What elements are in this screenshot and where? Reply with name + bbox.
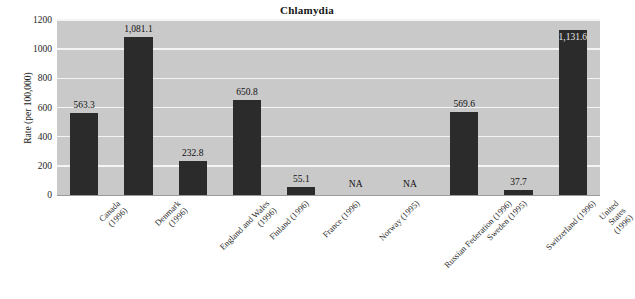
plot-area: 563.31,081.1232.8650.855.1NANA569.637.71…	[57, 20, 600, 195]
x-axis-line	[57, 195, 600, 196]
bar-value-label: 55.1	[293, 174, 310, 184]
bar-value-label: 563.3	[73, 100, 94, 110]
bar[interactable]	[70, 113, 98, 195]
y-axis-tick-label: 800	[16, 73, 52, 83]
y-axis-tick-label: 1000	[16, 44, 52, 54]
bar[interactable]	[450, 112, 478, 195]
bar-value-label: 232.8	[182, 148, 203, 158]
y-axis-tick-label: 1200	[16, 15, 52, 25]
bar-value-label: 1,131.6	[559, 32, 588, 42]
bar-na-label: NA	[349, 179, 363, 189]
y-axis-tick-label: 400	[16, 132, 52, 142]
bar[interactable]	[233, 100, 261, 195]
bar-value-label: 1,081.1	[124, 24, 153, 34]
y-axis-tick-label: 200	[16, 161, 52, 171]
bar[interactable]	[559, 30, 587, 195]
bar-na-label: NA	[403, 179, 417, 189]
bar[interactable]	[287, 187, 315, 195]
bar[interactable]	[179, 161, 207, 195]
bar[interactable]	[124, 37, 152, 195]
y-axis-line	[56, 20, 57, 196]
bar-value-label: 650.8	[236, 87, 257, 97]
y-axis-tick-label: 600	[16, 103, 52, 113]
bar-value-label: 569.6	[454, 99, 475, 109]
bars-layer: 563.31,081.1232.8650.855.1NANA569.637.71…	[57, 20, 600, 195]
y-axis-tick-label: 0	[16, 190, 52, 200]
bar-value-label: 37.7	[510, 177, 527, 187]
